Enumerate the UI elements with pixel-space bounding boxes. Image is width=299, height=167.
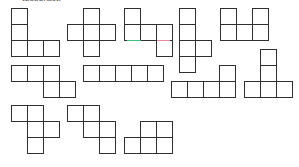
net-cell (115, 65, 132, 82)
net-cell (99, 65, 116, 82)
net-cell (83, 24, 100, 41)
polyomino-nets-diagram (0, 0, 299, 167)
net-cell (260, 49, 277, 66)
net-cell (43, 40, 60, 57)
net-cell (219, 81, 236, 98)
net-cell (83, 40, 100, 57)
net-cell (156, 24, 173, 41)
net-cell (219, 65, 236, 82)
net-cell (187, 81, 204, 98)
net-cell (59, 81, 76, 98)
net-cell (140, 24, 157, 41)
net-cell (83, 65, 100, 82)
net-cell (27, 105, 44, 122)
net-cell (67, 105, 84, 122)
net-cell (124, 137, 141, 154)
net-cell (179, 56, 196, 73)
net-cell (27, 40, 44, 57)
net-cell (195, 40, 212, 57)
net-cell (124, 24, 141, 41)
net-cell (220, 8, 237, 25)
net-cell (179, 8, 196, 25)
net-cell (171, 81, 188, 98)
net-cell (11, 8, 28, 25)
net-cell (236, 24, 253, 41)
net-cell (220, 24, 237, 41)
net-cell (156, 40, 173, 57)
net-cell (252, 24, 269, 41)
net-cell (99, 137, 116, 154)
net-cell (203, 81, 220, 98)
net-cell (83, 121, 100, 138)
net-cell (147, 65, 164, 82)
green-edge (127, 40, 141, 42)
net-cell (43, 81, 60, 98)
net-cell (67, 24, 84, 41)
net-cell (99, 24, 116, 41)
net-cell (140, 137, 157, 154)
net-cell (27, 65, 44, 82)
net-cell (11, 105, 28, 122)
net-cell (156, 137, 173, 154)
net-cell (11, 24, 28, 41)
net-cell (83, 8, 100, 25)
net-cell (83, 105, 100, 122)
net-cell (11, 65, 28, 82)
net-cell (27, 121, 44, 138)
net-cell (179, 40, 196, 57)
net-cell (276, 81, 293, 98)
net-cell (260, 81, 277, 98)
net-cell (124, 8, 141, 25)
net-cell (252, 8, 269, 25)
net-cell (11, 40, 28, 57)
net-cell (43, 65, 60, 82)
net-cell (27, 137, 44, 154)
net-cell (140, 121, 157, 138)
net-cell (99, 121, 116, 138)
net-cell (179, 24, 196, 41)
red-edge (157, 40, 170, 42)
net-cell (260, 65, 277, 82)
net-cell (131, 65, 148, 82)
net-cell (156, 121, 173, 138)
net-cell (244, 81, 261, 98)
net-cell (43, 121, 60, 138)
